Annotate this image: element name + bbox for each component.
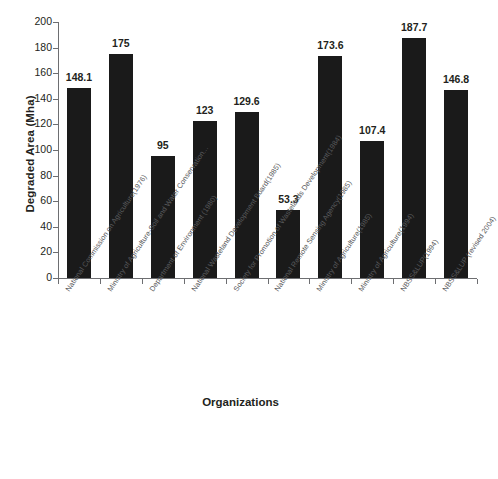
x-tick-mark <box>435 279 436 284</box>
x-tick-mark <box>268 279 269 284</box>
x-tick-mark <box>142 279 143 284</box>
x-tick-mark <box>58 279 59 284</box>
bar-value-label: 129.6 <box>223 96 271 107</box>
x-tick-mark <box>184 279 185 284</box>
x-tick-mark <box>100 279 101 284</box>
y-tick-label: 140 <box>22 93 52 104</box>
bar-value-label: 107.4 <box>348 125 396 136</box>
bar-value-label: 95 <box>139 140 187 151</box>
x-tick-mark <box>226 279 227 284</box>
bar-value-label: 148.1 <box>55 72 103 83</box>
x-tick-mark <box>393 279 394 284</box>
y-tick-label: 60 <box>22 195 52 206</box>
y-tick-label: 0 <box>22 272 52 283</box>
bar-value-label: 175 <box>97 38 145 49</box>
bar-value-label: 173.6 <box>306 40 354 51</box>
x-axis-title: Organizations <box>0 396 481 408</box>
y-tick-label: 180 <box>22 42 52 53</box>
bar-value-label: 187.7 <box>390 22 438 33</box>
y-tick-label: 20 <box>22 246 52 257</box>
bar[interactable] <box>109 54 133 278</box>
bar-value-label: 146.8 <box>432 74 480 85</box>
x-tick-mark <box>477 279 478 284</box>
y-tick-label: 160 <box>22 67 52 78</box>
y-tick-label: 80 <box>22 170 52 181</box>
bar[interactable] <box>444 90 468 278</box>
bar[interactable] <box>67 88 91 278</box>
bar[interactable] <box>402 38 426 278</box>
y-tick-label: 120 <box>22 118 52 129</box>
y-tick-label: 200 <box>22 16 52 27</box>
y-tick-label: 100 <box>22 144 52 155</box>
bar-value-label: 123 <box>181 105 229 116</box>
x-tick-mark <box>309 279 310 284</box>
y-tick-label: 40 <box>22 221 52 232</box>
x-tick-mark <box>351 279 352 284</box>
